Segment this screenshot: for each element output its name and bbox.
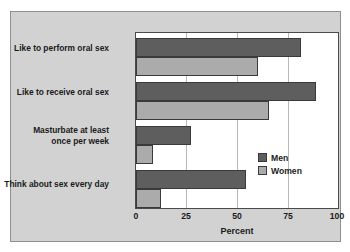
x-tick-100: 100 bbox=[330, 211, 344, 221]
bar-men-2 bbox=[136, 126, 191, 145]
x-axis: 0 25 50 75 100 bbox=[135, 211, 339, 225]
legend-label-men: Men bbox=[271, 153, 288, 163]
x-tick-25: 25 bbox=[181, 211, 191, 221]
chart-figure: Like to perform oral sex Like to receive… bbox=[0, 0, 350, 252]
x-axis-label: Percent bbox=[135, 226, 339, 236]
bar-men-3 bbox=[136, 170, 246, 189]
legend-swatch-women-icon bbox=[258, 166, 267, 175]
x-tick-75: 75 bbox=[283, 211, 293, 221]
category-label-3: Think about sex every day bbox=[0, 179, 109, 190]
bar-men-1 bbox=[136, 82, 316, 101]
bar-women-3 bbox=[136, 189, 161, 208]
gridline-75 bbox=[288, 33, 289, 208]
legend-label-women: Women bbox=[271, 166, 302, 176]
bar-women-0 bbox=[136, 57, 258, 76]
chart-panel: Like to perform oral sex Like to receive… bbox=[10, 11, 341, 242]
category-label-2: Masturbate at least once per week bbox=[0, 125, 109, 146]
x-tick-50: 50 bbox=[232, 211, 242, 221]
legend-item-women: Women bbox=[258, 164, 302, 177]
category-label-0: Like to perform oral sex bbox=[0, 43, 109, 54]
plot-area bbox=[135, 32, 339, 209]
category-label-1: Like to receive oral sex bbox=[0, 87, 109, 98]
bar-men-0 bbox=[136, 38, 301, 57]
x-tick-0: 0 bbox=[134, 211, 139, 221]
chart-legend: Men Women bbox=[258, 151, 302, 177]
legend-swatch-men-icon bbox=[258, 153, 267, 162]
bar-women-2 bbox=[136, 145, 153, 164]
legend-item-men: Men bbox=[258, 151, 302, 164]
bar-women-1 bbox=[136, 101, 269, 120]
